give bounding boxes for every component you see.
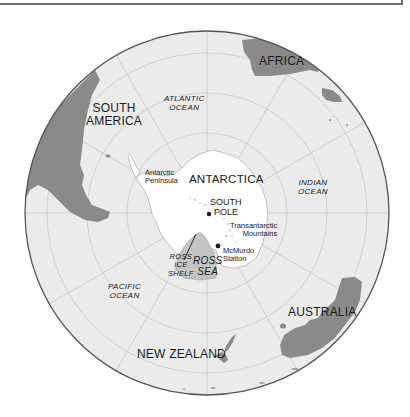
label-south-pole: SOUTH POLE: [210, 197, 242, 217]
label-line: Peninsula: [145, 177, 178, 185]
label-pacific-ocean: PACIFIC OCEAN: [108, 283, 141, 301]
label-line: SOUTH: [86, 102, 142, 115]
falkland-islands: [106, 155, 111, 158]
label-indian-ocean: INDIAN OCEAN: [298, 179, 328, 197]
label-ross-sea: ROSS SEA: [193, 255, 223, 277]
label-line: SOUTH: [210, 197, 242, 207]
label-antarctica: ANTARCTICA: [189, 173, 264, 186]
label-south-america: SOUTH AMERICA: [86, 102, 142, 129]
label-atlantic-ocean: ATLANTIC OCEAN: [164, 95, 204, 113]
label-ross-ice-shelf: ROSS ICE SHELF: [168, 253, 194, 278]
label-line: AMERICA: [86, 115, 142, 128]
label-antarctic-peninsula: Antarctic Peninsula: [145, 169, 178, 186]
label-line: POLE: [210, 207, 242, 217]
tasmania-landmass: [280, 324, 286, 329]
label-africa: AFRICA: [259, 55, 304, 68]
label-australia: AUSTRALIA: [288, 306, 357, 319]
label-line: Mountains: [230, 230, 277, 238]
label-line: SHELF: [168, 270, 194, 278]
label-line: SEA: [193, 266, 223, 277]
label-transantarctic-mountains: Transantarctic Mountains: [230, 222, 277, 239]
label-line: OCEAN: [298, 188, 328, 197]
mcmurdo-marker: [216, 244, 221, 249]
label-line: OCEAN: [164, 104, 204, 113]
label-line: ROSS: [193, 255, 223, 266]
label-line: Station: [223, 255, 254, 263]
label-mcmurdo-station: McMurdo Station: [223, 247, 254, 264]
label-new-zealand: NEW ZEALAND: [137, 348, 226, 361]
label-line: OCEAN: [108, 292, 141, 301]
